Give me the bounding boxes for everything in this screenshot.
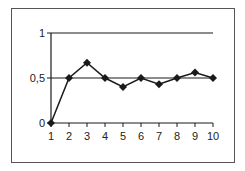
line-chart: 00,51 12345678910 [0,0,245,171]
x-tick-label: 5 [120,130,126,142]
y-tick-label: 0,5 [30,72,45,84]
x-tick-label: 8 [174,130,180,142]
y-tick-label: 1 [39,27,45,39]
x-tick-label: 7 [156,130,162,142]
x-tick-label: 9 [192,130,198,142]
x-tick-label: 6 [138,130,144,142]
x-tick-label: 1 [48,130,54,142]
x-tick-label: 10 [207,130,219,142]
x-tick-label: 2 [66,130,72,142]
x-tick-label: 4 [102,130,108,142]
y-tick-label: 0 [39,117,45,129]
x-tick-label: 3 [84,130,90,142]
